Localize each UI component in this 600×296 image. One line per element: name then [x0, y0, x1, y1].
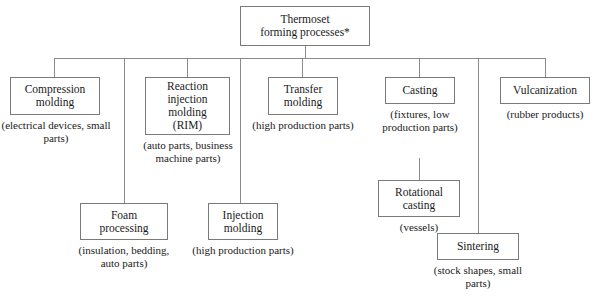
node-rotational-casting-label-line2: casting	[395, 199, 443, 212]
connector-drop-sintering	[478, 58, 479, 233]
connector-drop-rim	[187, 58, 188, 77]
node-compression-molding-label-line1: Compression	[25, 83, 86, 96]
caption-rim-line1: (auto parts,	[143, 139, 192, 151]
connector-drop-foam	[124, 58, 125, 203]
connector-drop-compression	[54, 58, 55, 77]
node-rim-label-line2: injection	[167, 93, 208, 106]
caption-vulcanization-line1: (rubber products)	[507, 108, 584, 120]
connector-casting-to-rotational	[419, 158, 420, 180]
node-casting: Casting	[385, 77, 455, 104]
caption-reaction-injection-molding: (auto parts, business machine parts)	[128, 139, 248, 165]
node-transfer-molding: Transfer molding	[268, 77, 338, 115]
node-rim-label-line1: Reaction	[167, 80, 208, 93]
node-foam-processing-label-line1: Foam	[99, 209, 148, 222]
node-vulcanization: Vulcanization	[500, 77, 590, 104]
node-injection-molding-label-line1: Injection	[223, 209, 264, 222]
caption-foam-processing-line2: bedding,	[131, 244, 169, 256]
caption-injection-molding-line2: parts)	[269, 244, 294, 256]
caption-compression-molding: (electrical devices, small parts)	[0, 119, 112, 145]
node-root-label-line1: Thermoset	[260, 13, 350, 26]
caption-casting-line1: (fixtures, low	[390, 108, 449, 120]
connector-drop-injection	[240, 58, 241, 203]
caption-compression-molding-line1: (electrical devices,	[1, 119, 83, 131]
caption-injection-molding: (high production parts)	[190, 244, 296, 257]
node-injection-molding: Injection molding	[208, 203, 278, 240]
caption-transfer-molding-line2: parts)	[329, 119, 354, 131]
node-sintering-label-line1: Sintering	[457, 240, 499, 253]
caption-casting-line2: production	[382, 121, 430, 133]
caption-injection-molding-line1: (high production	[192, 244, 266, 256]
node-rotational-casting: Rotational casting	[378, 180, 460, 217]
node-compression-molding-label-line2: molding	[25, 96, 86, 109]
node-sintering: Sintering	[437, 233, 519, 260]
connector-drop-transfer	[302, 58, 303, 77]
node-injection-molding-label-line2: molding	[223, 222, 264, 235]
caption-foam-processing-line3: auto parts)	[101, 257, 148, 269]
caption-vulcanization: (rubber products)	[490, 108, 600, 121]
node-compression-molding: Compression molding	[10, 77, 100, 115]
connector-drop-casting	[419, 58, 420, 77]
caption-casting: (fixtures, low production parts)	[375, 108, 465, 134]
caption-foam-processing: (insulation, bedding, auto parts)	[74, 244, 174, 270]
caption-sintering: (stock shapes, small parts)	[430, 264, 526, 290]
caption-transfer-molding-line1: (high production	[252, 119, 326, 131]
caption-sintering-line1: (stock shapes,	[434, 264, 496, 276]
node-root-label-line2: forming processes*	[260, 26, 350, 39]
node-reaction-injection-molding: Reaction injection molding (RIM)	[145, 77, 230, 135]
caption-foam-processing-line1: (insulation,	[79, 244, 129, 256]
caption-rim-line3: parts)	[195, 152, 220, 164]
node-casting-label-line1: Casting	[402, 84, 437, 97]
node-rim-label-line3: molding	[167, 106, 208, 119]
caption-transfer-molding: (high production parts)	[250, 119, 356, 132]
caption-casting-line3: parts)	[433, 121, 458, 133]
node-foam-processing-label-line2: processing	[99, 222, 148, 235]
node-transfer-molding-label-line1: Transfer	[284, 83, 323, 96]
node-foam-processing: Foam processing	[80, 203, 168, 240]
node-transfer-molding-label-line2: molding	[284, 96, 323, 109]
connector-main-bus	[54, 58, 546, 59]
caption-rotational-casting-line1: (vessels)	[400, 221, 439, 233]
node-rotational-casting-label-line1: Rotational	[395, 186, 443, 199]
node-root: Thermoset forming processes*	[240, 6, 370, 46]
thermoset-processes-diagram: Thermoset forming processes* Compression…	[0, 0, 600, 296]
node-rim-label-line4: (RIM)	[167, 119, 208, 132]
node-vulcanization-label-line1: Vulcanization	[513, 84, 577, 97]
connector-drop-vulcanization	[545, 58, 546, 77]
